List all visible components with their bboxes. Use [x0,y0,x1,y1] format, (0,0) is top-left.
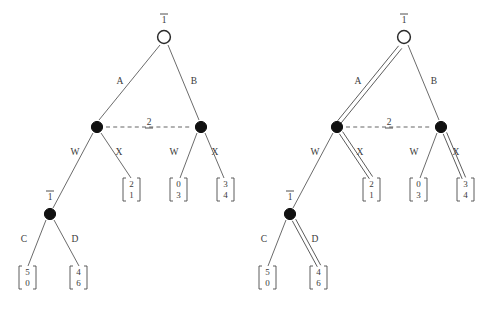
lower-node[interactable] [284,208,295,219]
edge-C [268,220,286,266]
left-game-tree: 2 1 1 A B W X W X C D 2 1 0 3 [0,0,249,310]
payoff-bottom: 4 [223,190,228,200]
edge-W-left [293,133,333,208]
payoff-top: 2 [369,179,374,189]
edge-label-W-left: W [311,147,320,157]
payoff-vector: 5 0 [19,266,36,289]
payoff-bottom: 1 [129,190,134,200]
payoff-vector: 4 6 [70,266,87,289]
payoff-vector: 5 0 [259,266,276,289]
payoff-top: 0 [416,179,421,189]
inner-node-left[interactable] [91,121,102,132]
payoff-top: 5 [265,267,270,277]
edge-label-A: A [355,76,362,86]
payoff-bottom: 6 [76,278,81,288]
payoff-vector: 0 3 [170,178,187,201]
payoff-vector: 0 3 [410,178,427,201]
payoff-bottom: 0 [265,278,270,288]
root-node[interactable] [398,31,411,44]
root-node[interactable] [158,31,171,44]
root-player-label: 1 [162,15,167,25]
edge-W-right [180,133,197,178]
edge-label-C: C [21,234,27,244]
inner-node-left[interactable] [331,121,342,132]
edge-label-D: D [312,234,319,244]
lower-node[interactable] [44,208,55,219]
edge-label-B: B [431,76,437,86]
edge-label-W-left: W [71,147,80,157]
edge-label-A: A [117,76,124,86]
edge-label-D: D [72,234,79,244]
payoff-top: 5 [25,267,30,277]
edge-label-C: C [261,234,267,244]
payoff-bottom: 4 [463,190,468,200]
right-game-tree: 2 1 1 A B W X W X C D 2 1 0 3 [240,0,489,310]
payoff-bottom: 1 [369,190,374,200]
payoff-vector: 3 4 [457,178,474,201]
payoff-bottom: 0 [25,278,30,288]
edge-label-B: B [191,76,197,86]
payoff-top: 4 [316,267,321,277]
edge-label-X-left: X [116,147,123,157]
edge-A-highlighted [338,46,402,124]
lower-player-label: 1 [288,192,293,202]
edge-label-X-left: X [357,147,364,157]
payoff-vector: 2 1 [363,178,380,201]
payoff-vector: 2 1 [123,178,140,201]
information-set-label: 2 [387,117,392,127]
payoff-top: 3 [463,179,468,189]
edge-A [99,45,160,120]
edge-C [28,220,46,266]
payoff-vector: 4 6 [310,266,327,289]
payoff-top: 0 [176,179,181,189]
figure-canvas: 2 1 1 A B W X W X C D 2 1 0 3 [0,0,489,310]
edge-label-W-right: W [410,147,419,157]
information-set-label: 2 [147,117,152,127]
payoff-bottom: 3 [176,190,181,200]
payoff-top: 4 [76,267,81,277]
payoff-top: 3 [223,179,228,189]
payoff-bottom: 6 [316,278,321,288]
edge-W-left [53,133,93,208]
edge-label-W-right: W [170,147,179,157]
edge-label-X-right: X [453,147,460,157]
inner-node-right[interactable] [195,121,206,132]
lower-player-label: 1 [48,192,53,202]
inner-node-right[interactable] [435,121,446,132]
payoff-bottom: 3 [416,190,421,200]
root-player-label: 1 [402,15,407,25]
edge-W-right [420,133,437,178]
edge-label-X-right: X [212,147,219,157]
payoff-vector: 3 4 [217,178,234,201]
payoff-top: 2 [129,179,134,189]
